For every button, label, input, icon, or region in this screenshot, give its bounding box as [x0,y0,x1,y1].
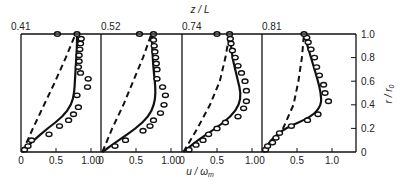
y-axis-title-sub: 0 [388,84,395,88]
measured-point [151,38,157,42]
x-axis-title: u / ωm [186,166,214,178]
y-axis-title-r: r / r [383,88,394,104]
y-tick-label: 0 [361,147,367,158]
measured-point [162,93,168,97]
measured-point [314,65,320,69]
x-tick-label: 0.5 [290,155,304,166]
measured-point [288,124,294,128]
measured-point [154,77,160,81]
measured-point [241,106,247,110]
measured-point [74,93,80,97]
measured-point [273,136,279,140]
measured-point [77,47,83,51]
x-axis-title-sub: m [208,171,214,178]
measured-point [305,118,311,122]
y-axis-title: r / r0 [383,84,395,103]
measured-point [312,55,318,59]
measured-point [85,85,91,89]
chart-figure: 0.4100.51.000.5200.51.000.7400.51.00.810… [0,0,402,188]
measured-point [151,118,157,122]
measured-point [239,71,245,75]
measured-point [277,131,283,135]
measured-point [270,140,276,144]
measured-point [200,138,206,142]
measured-point [243,99,249,103]
measured-point [228,41,234,45]
panel-z-label: 0.81 [262,21,282,32]
measured-point [227,37,233,41]
x-tick-label: 1.00 [161,155,181,166]
measured-point [160,85,166,89]
panel-4: 0.8100.51.0 [259,21,339,166]
measured-point [232,55,238,59]
measured-point [147,124,153,128]
y-tick-label: 0.2 [361,123,375,134]
measured-point [112,144,118,148]
measured-point [243,88,249,92]
panel-2: 0.5200.51.00 [98,21,181,166]
measured-point [153,61,159,65]
measured-point [316,73,322,77]
x-axis-title-u: u / ω [186,166,208,177]
x-tick-label: 0.5 [49,155,63,166]
panel-z-label: 0.74 [182,21,202,32]
measured-point [71,112,77,116]
measured-point [123,138,129,142]
x-tick-label: 0 [18,155,24,166]
measured-point [76,53,82,57]
measured-point [76,59,82,63]
measured-point [315,112,321,116]
measured-point [322,91,328,95]
measured-point [78,71,84,75]
y-tick-label: 0.4 [361,99,375,110]
y-tick-label: 0.6 [361,76,375,87]
measured-point [46,132,52,136]
panel-1: 0.4100.51.00 [11,21,101,166]
measured-point [161,103,167,107]
x-tick-label: 0 [98,155,104,166]
measured-point [214,126,220,130]
measured-point [158,111,164,115]
y-tick-label: 0.8 [361,52,375,63]
dashed-curve [263,34,304,152]
measured-point [206,132,212,136]
x-tick-label: 0.5 [129,155,143,166]
measured-point [154,67,160,71]
x-tick-label: 0.5 [210,155,224,166]
measured-point [151,44,157,48]
measured-point [326,99,332,103]
measured-point [222,120,228,124]
x-tick-label: 0 [179,155,185,166]
measured-point [140,129,146,133]
measured-point [229,48,235,52]
measured-point [25,144,31,148]
x-tick-label: 1.0 [325,155,339,166]
measured-point [308,47,314,51]
panel-z-label: 0.52 [101,21,121,32]
measured-point [85,77,91,81]
measured-point [78,37,84,41]
measured-point [321,83,327,87]
measured-point [305,40,311,44]
panels-group: 0.4100.51.000.5200.51.000.7400.51.00.810… [11,21,339,166]
measured-point [186,147,192,151]
x-tick-label: 1.0 [245,155,259,166]
measured-point [235,114,241,118]
measured-point [78,41,84,45]
x-tick-label: 0 [259,155,265,166]
top-axis-title: z / L [190,4,210,15]
measured-point [75,105,81,109]
measured-point [152,50,158,54]
panel-3: 0.7400.51.0 [179,21,259,166]
measured-point [242,79,248,83]
measured-point [153,55,159,59]
measured-point [66,118,72,122]
measured-point [57,124,63,128]
measured-point [29,138,35,142]
measured-point [235,64,241,68]
measured-point [75,65,81,69]
y-tick-label: 1.0 [361,29,375,40]
panel-z-label: 0.41 [11,21,31,32]
measured-point [193,143,199,147]
